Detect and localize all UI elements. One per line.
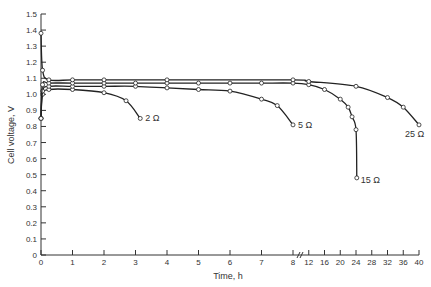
data-point [134,81,138,85]
data-point [307,79,311,83]
x-tick-label: 36 [399,258,408,267]
data-point [355,176,359,180]
data-point [197,88,201,92]
x-tick-label: 32 [383,258,392,267]
y-tick-label: 0 [33,251,38,260]
curves: 2 Ω5 Ω15 Ω25 Ω [39,31,425,185]
y-tick-label: 0.9 [26,106,38,115]
data-point [291,123,295,127]
x-tick-label: 8 [291,258,296,267]
series-2-ohm: 2 Ω [39,88,160,124]
discharge-chart: 00.10.20.30.40.50.60.70.80.91.01.11.21.3… [0,0,431,287]
data-point [41,68,45,72]
axes: 00.10.20.30.40.50.60.70.80.91.01.11.21.3… [26,10,424,267]
x-tick-label: 2 [102,258,107,267]
data-point [228,89,232,93]
data-point [323,88,327,92]
data-point [354,84,358,88]
data-point [102,78,106,82]
data-point [39,31,43,35]
y-axis-label: Cell voltage, V [6,106,16,164]
y-tick-label: 0.2 [26,219,38,228]
data-point [71,78,75,82]
data-point [350,115,354,119]
x-tick-label: 40 [415,258,424,267]
y-tick-label: 1.3 [26,42,38,51]
data-point [386,96,390,100]
x-tick-label: 24 [352,258,361,267]
data-point [291,78,295,82]
data-point [47,78,51,82]
y-tick-label: 0.8 [26,122,38,131]
x-tick-label: 5 [196,258,201,267]
x-axis-label: Time, h [213,271,243,281]
data-point [228,81,232,85]
x-tick-label: 16 [320,258,329,267]
y-tick-label: 1.4 [26,26,38,35]
series-label: 2 Ω [145,113,160,123]
series-label: 5 Ω [298,120,313,130]
x-tick-label: 6 [228,258,233,267]
y-tick-label: 0.1 [26,235,38,244]
series-label: 15 Ω [361,175,381,185]
x-tick-label: 4 [165,258,170,267]
x-tick-label: 28 [367,258,376,267]
data-point [102,91,106,95]
data-point [41,83,45,87]
curve-line [41,89,140,118]
series-label: 25 Ω [405,129,425,139]
y-tick-label: 0.6 [26,155,38,164]
data-point [165,78,169,82]
data-point [165,86,169,90]
data-point [260,81,264,85]
y-tick-label: 1.0 [26,90,38,99]
data-point [260,97,264,101]
y-tick-label: 0.5 [26,171,38,180]
y-tick-label: 1.5 [26,10,38,19]
curve-line [41,86,293,125]
x-tick-label: 20 [336,258,345,267]
data-point [39,116,43,120]
data-point [354,128,358,132]
y-tick-label: 1.1 [26,74,38,83]
data-point [338,97,342,101]
data-point [197,81,201,85]
x-tick-label: 7 [259,258,264,267]
series-15-ohm: 15 Ω [39,81,380,185]
y-tick-label: 1.2 [26,58,38,67]
series-25-ohm: 25 Ω [39,31,425,139]
series-5-ohm: 5 Ω [39,84,313,130]
y-tick-label: 0.7 [26,139,38,148]
x-tick-label: 1 [70,258,75,267]
x-tick-label: 12 [304,258,313,267]
y-tick-label: 0.3 [26,203,38,212]
y-tick-label: 0.4 [26,187,38,196]
data-point [417,123,421,127]
data-point [346,105,350,109]
data-point [401,105,405,109]
data-point [138,116,142,120]
x-tick-label: 0 [39,258,44,267]
data-point [124,99,128,103]
curve-line [41,33,419,125]
data-point [275,104,279,108]
x-tick-label: 3 [133,258,138,267]
